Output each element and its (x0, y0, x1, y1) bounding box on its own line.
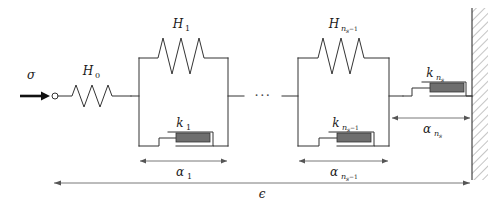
alpha-n1-label-sub-tail: −1 (349, 173, 358, 180)
spring-H0-label: H 0 (82, 64, 100, 80)
dimension-alpha-ns: α n s (392, 116, 470, 139)
kvn-dashpot-piston (337, 133, 371, 142)
stress-arrow-head (41, 92, 50, 101)
spring-Hn-label-main: H (328, 17, 340, 31)
alpha-1-arrowhead-left (140, 159, 146, 164)
spring-H1-label-main: H (172, 17, 184, 31)
dashpot-kns-label-sub2: s (441, 76, 444, 83)
alpha-1-label-sub: 1 (187, 172, 192, 181)
dashpot-kn1-label: k n s −1 (332, 116, 359, 133)
spring-Hn-label-sub-tail: −1 (349, 25, 358, 32)
epsilon-arrowhead-right (463, 180, 470, 185)
dashpot-kns-label: k n s (426, 66, 444, 83)
dimension-alpha-n1: α n s −1 (299, 159, 388, 182)
alpha-n1-label-main: α (330, 165, 338, 179)
dimension-total-strain: ϵ (54, 180, 470, 201)
kvn-spring-branch (298, 38, 389, 74)
alpha-1-label-main: α (176, 165, 184, 179)
dashpot-kn1-label-main: k (332, 116, 339, 130)
alpha-ns-arrowhead-left (392, 116, 398, 121)
dashpot-kns-label-main: k (426, 66, 433, 80)
dashpot-k1-label-main: k (176, 116, 183, 130)
alpha-n1-arrowhead-left (299, 159, 305, 164)
alpha-ns-label-main: α (423, 122, 431, 136)
epsilon-arrowhead-left (54, 180, 61, 185)
spring-H0-label-sub: 0 (95, 71, 100, 80)
dimension-alpha-1: α 1 (140, 159, 227, 181)
kvn-dashpot-rod-left (298, 138, 343, 146)
fixed-wall-hatched (472, 8, 488, 180)
dashpot-k1-label: k 1 (176, 116, 191, 132)
epsilon-label: ϵ (259, 187, 266, 201)
alpha-1-arrowhead-right (221, 159, 227, 164)
kv1-dashpot-piston (176, 133, 210, 142)
spring-H1-label-sub: 1 (185, 24, 190, 33)
dashpot-kns (403, 82, 472, 96)
wall-hatching (472, 8, 488, 180)
dashpot-k1-label-sub: 1 (186, 123, 191, 132)
stress-label: σ (27, 68, 36, 82)
ellipsis-repeat-units: ··· (255, 88, 272, 103)
rheological-model-figure: σ H 0 H 1 (0, 0, 502, 206)
alpha-n1-arrowhead-right (382, 159, 388, 164)
spring-H1-label: H 1 (172, 17, 190, 33)
spring-Hn-label: H n s −1 (328, 17, 358, 34)
dashpot-kn1-label-sub-tail: −1 (350, 124, 359, 131)
alpha-ns-label-sub2: s (439, 132, 442, 139)
kv1-spring-branch (139, 38, 228, 74)
spring-H0-coil (58, 85, 131, 107)
kns-piston (430, 83, 464, 92)
alpha-ns-arrowhead-right (464, 116, 470, 121)
stress-arrow (20, 92, 50, 101)
pin-node (52, 93, 58, 99)
spring-H0-label-main: H (82, 64, 94, 78)
diagram-canvas: σ H 0 H 1 (0, 0, 502, 206)
spring-H0 (58, 85, 131, 107)
kv1-dashpot-rod-left (139, 138, 182, 146)
